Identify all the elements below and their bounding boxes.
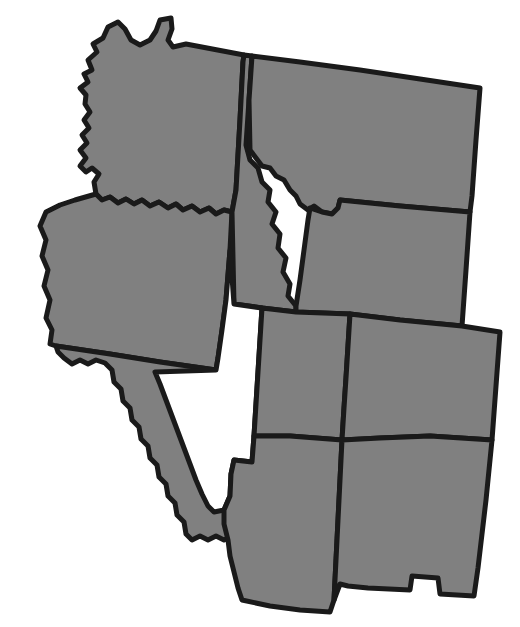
- state-new-mexico[interactable]: New Mexico: [334, 436, 492, 600]
- state-colorado[interactable]: Colorado: [342, 314, 500, 440]
- state-wyoming[interactable]: Wyoming: [296, 200, 470, 326]
- western-us-map: WashingtonOregonIdahoMontanaWyomingCalif…: [0, 0, 520, 627]
- state-oregon[interactable]: Oregon: [40, 194, 232, 370]
- map-container: WashingtonOregonIdahoMontanaWyomingCalif…: [0, 0, 520, 627]
- state-arizona[interactable]: Arizona: [224, 436, 342, 612]
- state-utah[interactable]: Utah: [254, 308, 350, 440]
